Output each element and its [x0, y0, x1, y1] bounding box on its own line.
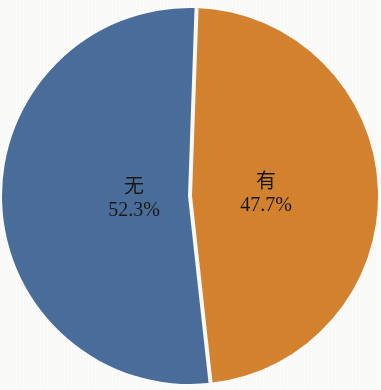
pie-chart-canvas [0, 0, 381, 390]
pie-chart: 无 52.3% 有 47.7% [0, 0, 381, 390]
